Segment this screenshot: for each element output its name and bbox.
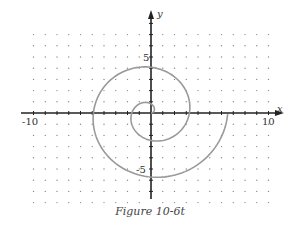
x-axis-label: x bbox=[277, 103, 283, 114]
y-axis-label: y bbox=[156, 8, 163, 19]
figure-caption: Figure 10-6t bbox=[0, 205, 300, 218]
y-neg-label: -5 bbox=[136, 164, 146, 175]
spiral-chart: x y -10 10 5 -5 bbox=[0, 0, 300, 225]
x-max-label: 10 bbox=[262, 116, 275, 127]
x-min-label: -10 bbox=[22, 116, 38, 127]
spiral-curve bbox=[93, 67, 228, 177]
y-pos-label: 5 bbox=[143, 52, 149, 63]
